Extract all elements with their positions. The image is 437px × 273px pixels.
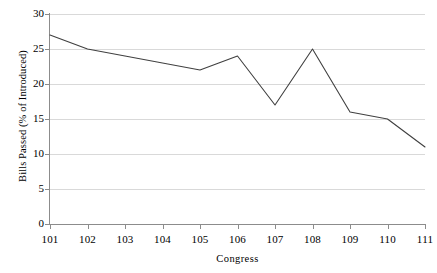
x-tick-label: 106: [218, 233, 258, 246]
x-tick-mark: [313, 225, 314, 229]
x-tick-label: 105: [180, 233, 220, 246]
x-tick-mark: [50, 225, 51, 229]
x-axis-tick-labels: 101102103104105106107108109110111: [50, 233, 425, 247]
y-axis-tick-marks: [0, 14, 50, 224]
plot-area: [50, 14, 425, 224]
x-axis-tick-marks: [50, 225, 425, 230]
x-tick-label: 110: [368, 233, 408, 246]
x-tick-mark: [238, 225, 239, 229]
data-series-line: [50, 14, 425, 224]
x-axis-title: Congress: [50, 252, 425, 266]
x-tick-mark: [350, 225, 351, 229]
x-tick-mark: [88, 225, 89, 229]
x-tick-label: 101: [30, 233, 70, 246]
x-tick-label: 107: [255, 233, 295, 246]
x-tick-mark: [125, 225, 126, 229]
series-polyline: [50, 35, 425, 147]
line-chart: Bills Passed (% of Introduced) 051015202…: [0, 0, 437, 273]
x-tick-label: 109: [330, 233, 370, 246]
x-tick-mark: [163, 225, 164, 229]
x-tick-mark: [388, 225, 389, 229]
x-tick-label: 104: [143, 233, 183, 246]
x-tick-mark: [200, 225, 201, 229]
x-tick-label: 111: [405, 233, 437, 246]
x-tick-label: 108: [293, 233, 333, 246]
x-tick-label: 102: [68, 233, 108, 246]
x-tick-label: 103: [105, 233, 145, 246]
x-tick-mark: [275, 225, 276, 229]
x-tick-mark: [425, 225, 426, 229]
